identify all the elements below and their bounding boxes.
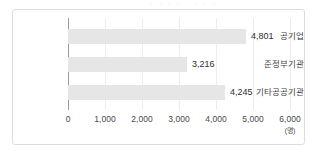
bar-value-label-2: 3,216 [192,57,215,72]
bar-2 [68,57,187,72]
x-tick-2000: 2,000 [131,114,152,124]
chart-frame: 공기업4,801준정부기관3,216기타공공기관4,245 01,0002,00… [12,9,305,145]
x-tick-1000: 1,000 [94,114,115,124]
bar-value-label-1: 4,801 [251,29,274,44]
bar-row: 준정부기관3,216 [13,57,304,72]
x-tick-3000: 3,000 [168,114,189,124]
axis-unit-label: (명) [285,125,296,135]
x-tick-4000: 4,000 [205,114,226,124]
category-label-2: 준정부기관 [253,57,304,72]
bar-1 [68,29,246,44]
category-label-3: 기타공공기관 [253,85,304,100]
bar-row: 공기업4,801 [13,29,304,44]
clipped-header-text: · · · · · · · · [150,0,310,5]
x-tick-5000: 5,000 [242,114,263,124]
x-tick-0: 0 [66,114,71,124]
bar-3 [68,85,225,100]
bar-row: 기타공공기관4,245 [13,85,304,100]
x-tick-6000: 6,000 [279,114,300,124]
bar-value-label-3: 4,245 [230,85,253,100]
bar-chart-plot-area: 공기업4,801준정부기관3,216기타공공기관4,245 01,0002,00… [13,10,304,144]
